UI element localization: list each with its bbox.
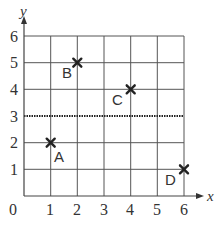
x-axis-label: x <box>206 188 214 204</box>
point-d-label: D <box>165 171 176 188</box>
x-tick-3: 3 <box>100 201 108 218</box>
y-tick-2: 2 <box>10 134 18 151</box>
x-tick-5: 5 <box>153 201 161 218</box>
x-tick-1: 1 <box>46 201 54 218</box>
x-tick-2: 2 <box>73 201 81 218</box>
point-a-label: A <box>54 148 64 165</box>
y-tick-4: 4 <box>10 81 18 98</box>
y-axis-label: y <box>18 3 27 19</box>
y-tick-6: 6 <box>10 28 18 45</box>
x-axis-arrow-icon <box>196 193 204 199</box>
y-tick-5: 5 <box>10 54 18 71</box>
axes <box>24 22 198 196</box>
x-tick-4: 4 <box>126 201 134 218</box>
origin-label: 0 <box>9 201 17 218</box>
y-tick-1: 1 <box>10 161 18 178</box>
coordinate-grid: y x 6 5 4 3 2 1 0 1 2 3 4 5 6 A B C D <box>0 0 223 229</box>
y-tick-3: 3 <box>10 108 18 125</box>
point-c-label: C <box>112 91 123 108</box>
point-b-label: B <box>62 64 72 81</box>
x-tick-6: 6 <box>180 201 188 218</box>
